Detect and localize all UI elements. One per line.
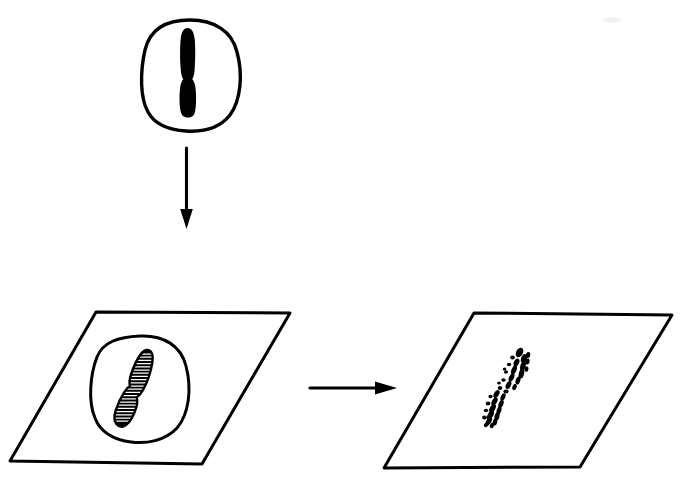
slide-parallelogram-right — [384, 313, 672, 468]
arrow-right-head — [375, 382, 397, 395]
figure-canvas: Chromosome preparation and in situ hybri… — [0, 0, 690, 486]
arrow-cell-to-slide — [180, 148, 193, 229]
chromosome-solid-top — [180, 28, 197, 118]
hybridization-signal-dots — [482, 346, 531, 428]
arrow-down-head — [180, 209, 193, 229]
panel-slide-banded — [10, 312, 290, 464]
panel-slide-hybridized — [384, 313, 672, 468]
arrow-slide-to-hybridized-slide — [310, 382, 397, 395]
panel-intact-cell — [142, 20, 241, 131]
scan-speck — [603, 17, 621, 23]
figure-drawing — [0, 0, 690, 486]
